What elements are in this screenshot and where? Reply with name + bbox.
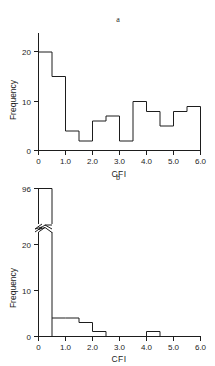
panel-a-plot: 0 10 20 0 1.0 2.0 3.0 4.0 5.0 6.0 CFI Fr… (0, 0, 215, 183)
panel-b-xtick-4: 4.0 (141, 343, 153, 352)
panel-b-plot: 0 10 20 96 0 1.0 2.0 3.0 4.0 5.0 6.0 CFI… (0, 183, 215, 366)
panel-a-xtick-3: 3.0 (114, 157, 126, 166)
panel-a-x-ticks (39, 151, 201, 156)
panel-a-xtick-5: 5.0 (168, 157, 180, 166)
figure-cfi-histograms: a 0 (0, 0, 215, 366)
panel-a-ytick-10: 10 (22, 98, 31, 107)
panel-b-xtick-0: 0 (36, 343, 41, 352)
panel-a-y-axis-title: Frequency (8, 79, 18, 120)
panel-a-xtick-2: 2.0 (87, 157, 99, 166)
panel-a-ytick-0: 0 (27, 147, 32, 156)
panel-a-xtick-4: 4.0 (141, 157, 153, 166)
panel-b-xtick-5: 5.0 (168, 343, 180, 352)
panel-b-x-ticks (39, 337, 201, 342)
panel-a-ytick-20: 20 (22, 48, 31, 57)
panel-b-y-ticks (34, 189, 39, 337)
panel-b-xtick-2: 2.0 (87, 343, 99, 352)
panel-a-xtick-1: 1.0 (60, 157, 72, 166)
panel-b-xtick-6: 6.0 (195, 343, 207, 352)
panel-b-ytick-20: 20 (22, 241, 31, 250)
panel-a-y-ticks (34, 52, 39, 151)
panel-b-histogram-tall-bar (39, 189, 53, 337)
panel-a-xtick-6: 6.0 (195, 157, 207, 166)
panel-b-ytick-96: 96 (22, 185, 31, 194)
panel-b-histogram-outlier-bar (147, 332, 161, 337)
panel-b-xtick-1: 1.0 (60, 343, 72, 352)
panel-b-xtick-3: 3.0 (114, 343, 126, 352)
panel-a-xtick-0: 0 (36, 157, 41, 166)
panel-b-ytick-10: 10 (22, 287, 31, 296)
panel-a: a 0 (0, 0, 215, 183)
panel-a-histogram (39, 52, 201, 151)
panel-b-histogram (52, 318, 106, 337)
panel-b-y-axis-title: Frequency (8, 267, 18, 308)
panel-b-letter: b (111, 173, 125, 182)
panel-b: b (0, 183, 215, 366)
panel-b-x-axis-title: CFI (111, 354, 126, 364)
panel-b-ytick-0: 0 (27, 333, 32, 342)
panel-b-bar-break-2 (45, 225, 52, 233)
panel-a-letter: a (111, 15, 125, 24)
